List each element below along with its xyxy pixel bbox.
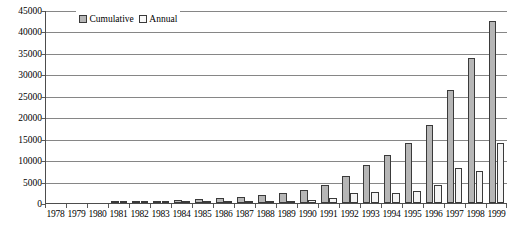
bar-group — [130, 11, 151, 203]
bar-cumulative — [300, 190, 308, 203]
y-axis-tick-mark — [41, 204, 45, 205]
bar-annual — [287, 201, 295, 203]
bar-cumulative — [111, 201, 119, 203]
bar-annual — [224, 201, 232, 203]
bar-group — [235, 11, 256, 203]
bar-annual — [120, 201, 128, 203]
x-tick-label: 1999 — [486, 207, 507, 223]
bar-annual — [245, 201, 253, 203]
legend-label: Cumulative — [90, 14, 134, 24]
bar-group — [172, 11, 193, 203]
x-tick-label: 1986 — [213, 207, 234, 223]
bars-layer — [46, 11, 507, 203]
x-tick-label: 1987 — [234, 207, 255, 223]
bar-cumulative — [384, 155, 392, 203]
x-axis: 1978197919801981198219831984198519861987… — [45, 207, 507, 223]
bar-group — [214, 11, 235, 203]
y-axis: 4500040000350003000025000200001500010000… — [0, 0, 42, 234]
bar-annual — [329, 198, 337, 203]
x-tick-label: 1998 — [465, 207, 486, 223]
bar-cumulative — [489, 21, 497, 203]
x-tick-label: 1978 — [45, 207, 66, 223]
y-axis-tick-mark — [41, 118, 45, 119]
bar-annual — [308, 200, 316, 203]
plot-area — [45, 11, 507, 204]
y-tick-label: 5000 — [2, 178, 42, 188]
bar-annual — [476, 171, 484, 203]
bar-cumulative — [363, 165, 371, 203]
bar-group — [465, 11, 486, 203]
bar-annual — [203, 201, 211, 203]
x-tick-label: 1989 — [276, 207, 297, 223]
y-axis-tick-mark — [41, 183, 45, 184]
bar-group — [276, 11, 297, 203]
y-tick-label: 25000 — [2, 92, 42, 102]
bar-annual — [413, 191, 421, 203]
x-tick-label: 1988 — [255, 207, 276, 223]
y-axis-tick-mark — [41, 140, 45, 141]
bar-cumulative — [321, 185, 329, 203]
bar-cumulative — [468, 58, 476, 203]
bar-group — [444, 11, 465, 203]
bar-group — [88, 11, 109, 203]
x-tick-label: 1995 — [402, 207, 423, 223]
bar-cumulative — [426, 125, 434, 203]
bar-group — [339, 11, 360, 203]
x-tick-label: 1985 — [192, 207, 213, 223]
x-tick-label: 1997 — [444, 207, 465, 223]
x-tick-label: 1981 — [108, 207, 129, 223]
legend-entry: Cumulative — [79, 14, 134, 24]
y-axis-tick-mark — [41, 32, 45, 33]
bar-cumulative — [195, 199, 203, 203]
legend-entry: Annual — [139, 14, 177, 24]
x-tick-label: 1992 — [339, 207, 360, 223]
x-tick-label: 1993 — [360, 207, 381, 223]
bar-group — [381, 11, 402, 203]
bar-group — [256, 11, 277, 203]
y-tick-label: 30000 — [2, 70, 42, 80]
bar-cumulative — [447, 90, 455, 203]
bar-group — [67, 11, 88, 203]
bar-cumulative — [132, 201, 140, 203]
bar-cumulative — [237, 197, 245, 203]
bar-annual — [434, 185, 442, 203]
y-axis-tick-mark — [41, 75, 45, 76]
bar-group — [360, 11, 381, 203]
y-axis-tick-mark — [41, 11, 45, 12]
bar-annual — [162, 201, 170, 203]
x-tick-label: 1983 — [150, 207, 171, 223]
bar-group — [297, 11, 318, 203]
bar-annual — [350, 193, 358, 203]
x-tick-label: 1979 — [66, 207, 87, 223]
bar-group — [109, 11, 130, 203]
legend-swatch-annual — [139, 15, 147, 23]
x-tick-label: 1982 — [129, 207, 150, 223]
x-tick-label: 1991 — [318, 207, 339, 223]
bar-group — [193, 11, 214, 203]
bar-annual — [182, 201, 190, 203]
legend-label: Annual — [149, 14, 177, 24]
bar-cumulative — [279, 193, 287, 203]
bar-cumulative — [342, 176, 350, 203]
y-axis-tick-mark — [41, 54, 45, 55]
bar-annual — [371, 192, 379, 203]
bar-annual — [392, 193, 400, 203]
x-tick-label: 1994 — [381, 207, 402, 223]
y-tick-label: 20000 — [2, 113, 42, 123]
y-tick-label: 15000 — [2, 135, 42, 145]
bar-group — [423, 11, 444, 203]
x-tick-label: 1996 — [423, 207, 444, 223]
bar-annual — [497, 143, 505, 203]
chart-legend: CumulativeAnnual — [76, 11, 180, 26]
y-tick-label: 40000 — [2, 27, 42, 37]
bar-annual — [141, 201, 149, 203]
bar-annual — [455, 168, 463, 203]
bar-cumulative — [405, 143, 413, 203]
bar-group — [318, 11, 339, 203]
bar-group — [402, 11, 423, 203]
x-tick-label: 1990 — [297, 207, 318, 223]
bar-cumulative — [174, 200, 182, 203]
bar-cumulative — [258, 195, 266, 203]
y-tick-label: 10000 — [2, 156, 42, 166]
y-axis-tick-mark — [41, 97, 45, 98]
